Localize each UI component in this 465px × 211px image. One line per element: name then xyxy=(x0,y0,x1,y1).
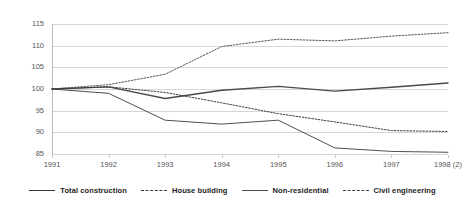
legend-item-house-building[interactable]: House building xyxy=(141,186,228,195)
legend-swatch-house-building xyxy=(141,190,167,191)
legend-swatch-non-residential xyxy=(242,190,268,192)
legend-item-total-construction[interactable]: Total construction xyxy=(29,186,127,195)
series-layer xyxy=(0,0,465,211)
legend-label: House building xyxy=(172,186,228,195)
legend-item-non-residential[interactable]: Non-residential xyxy=(242,186,329,195)
legend-label: Civil engineering xyxy=(374,186,436,195)
legend-swatch-total-construction xyxy=(29,190,55,191)
legend-label: Non-residential xyxy=(273,186,329,195)
legend-swatch-civil-engineering xyxy=(343,190,369,191)
legend-item-civil-engineering[interactable]: Civil engineering xyxy=(343,186,436,195)
series-line-house-building xyxy=(52,33,448,89)
series-line-non-residential xyxy=(52,83,448,99)
legend-label: Total construction xyxy=(60,186,127,195)
line-chart: 115110105100959085 199119921993199419951… xyxy=(0,0,465,211)
chart-legend: Total constructionHouse buildingNon-resi… xyxy=(0,186,465,195)
series-line-total-construction xyxy=(52,89,448,152)
series-line-civil-engineering xyxy=(52,87,448,132)
